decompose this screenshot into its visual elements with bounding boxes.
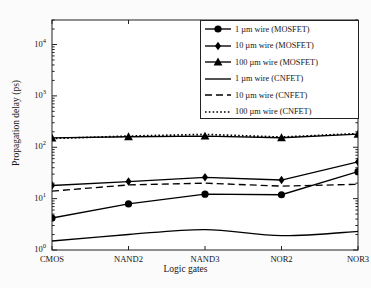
y-tick-label: 101 — [20, 193, 46, 203]
chart-figure: Propagation delay (ps) Logic gates 10010… — [0, 0, 371, 288]
data-point-marker — [215, 42, 221, 50]
legend-sample-none — [201, 71, 235, 87]
y-tick-label: 100 — [20, 244, 46, 254]
y-axis-title: Propagation delay (ps) — [11, 63, 21, 183]
data-point-marker — [214, 26, 221, 33]
data-point-marker — [125, 200, 132, 207]
legend-sample-triangle — [201, 54, 235, 70]
x-tick-label: NOR3 — [328, 254, 371, 264]
legend-label: 10 µm wire (MOSFET) — [235, 41, 314, 50]
x-axis-title: Logic gates — [0, 264, 371, 274]
legend-label: 1 µm wire (CNFET) — [235, 74, 303, 83]
x-tick-label: NAND2 — [99, 254, 159, 264]
y-tick-label: 102 — [20, 141, 46, 151]
legend-sample-none — [201, 104, 235, 120]
legend-sample-none — [201, 87, 235, 103]
data-point-marker — [48, 214, 55, 221]
legend-label: 1 µm wire (MOSFET) — [235, 25, 310, 34]
legend-sample-diamond — [201, 38, 235, 54]
chart-legend: 1 µm wire (MOSFET)10 µm wire (MOSFET)100… — [200, 20, 359, 119]
legend-item: 1 µm wire (MOSFET) — [201, 21, 358, 38]
data-point-marker — [354, 168, 361, 175]
legend-item: 1 µm wire (CNFET) — [201, 71, 358, 88]
data-point-marker — [278, 191, 285, 198]
y-tick-label: 103 — [20, 90, 46, 100]
legend-item: 10 µm wire (CNFET) — [201, 87, 358, 104]
y-tick-label: 104 — [20, 39, 46, 49]
x-tick-label: NAND3 — [175, 254, 235, 264]
x-tick-label: CMOS — [22, 254, 82, 264]
legend-item: 10 µm wire (MOSFET) — [201, 38, 358, 55]
legend-label: 100 µm wire (MOSFET) — [235, 58, 318, 67]
x-tick-label: NOR2 — [252, 254, 312, 264]
legend-sample-circle — [201, 21, 235, 37]
legend-label: 10 µm wire (CNFET) — [235, 91, 307, 100]
legend-item: 100 µm wire (CNFET) — [201, 104, 358, 121]
legend-item: 100 µm wire (MOSFET) — [201, 54, 358, 71]
data-point-marker — [201, 191, 208, 198]
legend-label: 100 µm wire (CNFET) — [235, 107, 311, 116]
